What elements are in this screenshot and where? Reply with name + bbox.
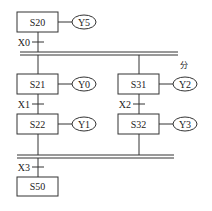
step-label-s32: S32 — [131, 119, 147, 130]
step-label-s31: S31 — [131, 79, 147, 90]
action-label-y5: Y5 — [78, 17, 90, 28]
transition-label-x3: X3 — [18, 162, 30, 173]
action-label-y0: Y0 — [78, 79, 90, 90]
step-label-s21: S21 — [30, 79, 46, 90]
branch-label: 分 — [180, 61, 188, 70]
step-label-s20: S20 — [30, 17, 46, 28]
action-label-y3: Y3 — [179, 119, 191, 130]
action-label-y2: Y2 — [179, 79, 191, 90]
diagram-svg: S20 Y5 X0 分 S21 Y0 X1 S22 Y1 S31 Y2 X2 S… — [0, 0, 212, 211]
transition-label-x0: X0 — [18, 37, 30, 48]
step-label-s22: S22 — [30, 119, 46, 130]
action-label-y1: Y1 — [78, 119, 90, 130]
sfc-diagram: S20 Y5 X0 分 S21 Y0 X1 S22 Y1 S31 Y2 X2 S… — [0, 0, 212, 211]
transition-label-x1: X1 — [18, 99, 30, 110]
step-label-s50: S50 — [30, 181, 46, 192]
transition-label-x2: X2 — [119, 99, 131, 110]
